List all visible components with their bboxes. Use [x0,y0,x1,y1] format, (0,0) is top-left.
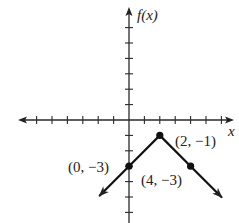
point-label-y-intercept: (0, −3) [68,159,109,176]
function-graph: f(x) x (2, −1) (0, −3) (4, −3) [0,0,239,223]
y-axis-label: f(x) [137,7,158,24]
axes [18,7,234,223]
data-point [187,163,194,170]
x-axis-label: x [227,123,235,139]
point-label-vertex: (2, −1) [175,133,216,150]
data-point [125,163,132,170]
point-label-right: (4, −3) [141,172,182,189]
data-point [156,132,163,139]
